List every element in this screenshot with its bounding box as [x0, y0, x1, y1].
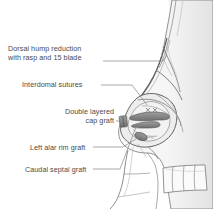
lateral-face-profile-illustration — [0, 0, 213, 209]
label-caudal-septal-graft-line1: Caudal septal graft — [25, 165, 86, 174]
label-double-layered-cap-graft: Double layered cap graft — [38, 107, 114, 125]
label-left-alar-rim-graft: Left alar rim graft — [30, 143, 85, 152]
label-interdomal-sutures-line1: Interdomal sutures — [22, 80, 82, 89]
maxillary-teeth — [163, 165, 207, 193]
label-caudal-septal-graft: Caudal septal graft — [25, 165, 86, 174]
lip-and-chin-contour — [110, 147, 158, 209]
label-dorsal-hump-reduction-line1: Dorsal hump reduction — [8, 44, 81, 53]
label-double-layered-cap-graft-line2: cap graft — [38, 116, 114, 125]
label-dorsal-hump-reduction: Dorsal hump reduction with rasp and 15 b… — [8, 44, 81, 62]
rhinoplasty-illustration-figure: Dorsal hump reduction with rasp and 15 b… — [0, 0, 213, 209]
label-dorsal-hump-reduction-line2: with rasp and 15 blade — [8, 53, 81, 62]
leader-line-dorsal-hump — [103, 55, 167, 61]
label-double-layered-cap-graft-line1: Double layered — [38, 107, 114, 116]
label-left-alar-rim-graft-line1: Left alar rim graft — [30, 143, 85, 152]
label-interdomal-sutures: Interdomal sutures — [22, 80, 82, 89]
